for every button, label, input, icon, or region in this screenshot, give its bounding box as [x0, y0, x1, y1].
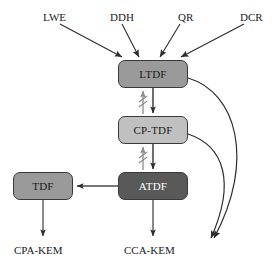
edge-atdf-to-cptdf-crossed — [139, 147, 147, 170]
edge-cptdf-to-ccakem-curved — [188, 134, 224, 238]
node-ltdf[interactable]: LTDF — [118, 60, 188, 88]
node-tdf[interactable]: TDF — [13, 172, 73, 200]
edge-dcr-to-ltdf — [181, 24, 244, 57]
output-label-cpa-kem: CPA-KEM — [14, 245, 63, 256]
edge-cptdf-to-ltdf-crossed — [139, 91, 147, 114]
assumption-label-ddh: DDH — [110, 12, 134, 23]
edge-qr-to-ltdf — [160, 24, 180, 57]
assumption-label-dcr: DCR — [240, 12, 263, 23]
assumption-label-qr: QR — [178, 12, 193, 23]
implication-diagram: LWE DDH QR DCR LTDF CP-TDF ATDF TDF CPA-… — [0, 0, 280, 264]
node-atdf[interactable]: ATDF — [118, 172, 188, 200]
edge-lwe-to-ltdf — [60, 24, 122, 57]
edge-ltdf-to-ccakem-curved — [188, 78, 237, 238]
node-cptdf[interactable]: CP-TDF — [118, 116, 188, 144]
edge-ddh-to-ltdf — [122, 24, 139, 57]
output-label-cca-kem: CCA-KEM — [124, 245, 175, 256]
assumption-label-lwe: LWE — [43, 12, 66, 23]
